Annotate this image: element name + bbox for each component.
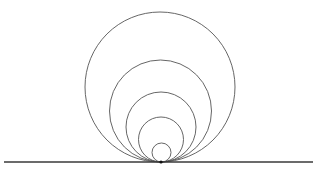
figure-canvas: [0, 0, 317, 175]
tangency-point: [159, 160, 162, 163]
tangent-circles-diagram: [0, 0, 317, 175]
figure-background: [0, 0, 317, 175]
